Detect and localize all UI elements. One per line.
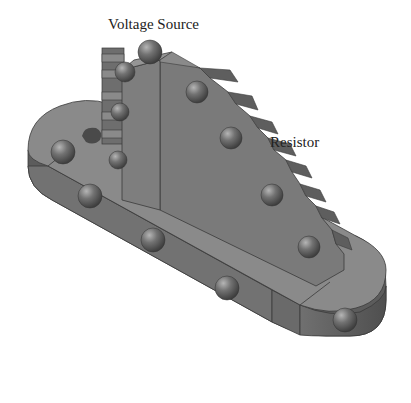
diagram-canvas: Voltage Source Resistor [0, 0, 411, 403]
charge-ball [78, 184, 102, 208]
charge-ball [115, 62, 135, 82]
charge-ball [51, 140, 75, 164]
charge-ball [298, 236, 320, 258]
charge-loop-model [0, 0, 411, 403]
charge-ball [215, 276, 239, 300]
resistor-label: Resistor [270, 134, 319, 151]
charge-ball [109, 151, 127, 169]
voltage-source-label: Voltage Source [108, 16, 199, 33]
voltage-source-steps [102, 48, 124, 144]
charge-ball [186, 81, 208, 103]
charge-ball [261, 184, 283, 206]
charge-ball [333, 308, 357, 332]
charge-ball [220, 127, 242, 149]
charge-ball [111, 103, 129, 121]
charge-ball [141, 228, 165, 252]
charge-ball [138, 40, 162, 64]
